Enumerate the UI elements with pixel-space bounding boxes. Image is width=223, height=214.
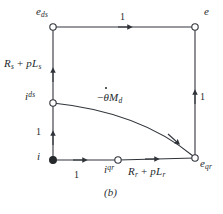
edge-label-bottom-left-gain: 1 xyxy=(74,170,79,180)
node-e-ds xyxy=(50,24,56,30)
node-i-ds xyxy=(50,100,56,106)
edge-bottom-right xyxy=(118,158,195,160)
edge-label-coupling: −θMd xyxy=(97,92,122,104)
edge-label-right-gain: 1 xyxy=(200,92,205,102)
node-label-e-ds: eds xyxy=(36,6,48,18)
graph-canvas xyxy=(0,0,223,214)
node-label-i-qr: iqr xyxy=(104,164,114,175)
node-e-qr xyxy=(192,155,198,161)
edge-label-left-lower-gain: 1 xyxy=(36,127,41,137)
node-label-i: i xyxy=(37,151,40,162)
node-label-e-qr: eqr xyxy=(200,158,212,170)
edge-coupling-curve xyxy=(53,103,193,156)
edge-label-top-gain: 1 xyxy=(120,12,125,22)
edge-label-stator-impedance: Rs + pLs xyxy=(4,58,42,70)
node-label-i-ds: ids xyxy=(25,91,35,102)
node-i-qr xyxy=(115,157,121,163)
edge-label-rotor-impedance: Rr + pLr xyxy=(128,166,166,178)
node-i xyxy=(50,157,57,164)
node-label-e: e xyxy=(204,6,209,17)
figure-caption: (b) xyxy=(104,186,117,198)
node-e xyxy=(192,24,198,30)
signal-flow-graph-figure: eds e ids i iqr eqr 1 1 1 1 Rs + pLs Rr … xyxy=(0,0,223,214)
theta-dot-icon xyxy=(105,87,107,89)
